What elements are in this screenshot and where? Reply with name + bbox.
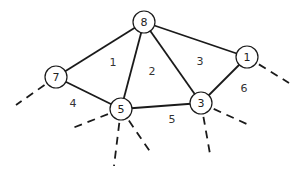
edge-8-1 <box>144 22 247 57</box>
dangling-edge-7 <box>16 85 45 105</box>
face-labels: 123456 <box>70 55 248 126</box>
node-7: 7 <box>45 66 67 88</box>
node-label: 3 <box>198 97 205 110</box>
node-1: 1 <box>236 46 258 68</box>
face-label: 2 <box>149 65 156 78</box>
node-label: 5 <box>118 103 125 116</box>
node-label: 8 <box>141 16 148 29</box>
face-label: 4 <box>70 97 77 110</box>
dangling-edge-5 <box>70 114 108 129</box>
dangling-edge-5 <box>114 123 119 166</box>
node-label: 1 <box>244 51 251 64</box>
dangling-edge-1 <box>259 64 289 83</box>
face-label: 3 <box>197 55 204 68</box>
node-5: 5 <box>110 98 132 120</box>
face-label: 6 <box>241 82 248 95</box>
face-label: 1 <box>110 56 117 69</box>
dangling-edge-3 <box>214 109 251 126</box>
dangling-edge-3 <box>203 117 210 154</box>
edge-8-3 <box>144 22 201 103</box>
node-8: 8 <box>133 11 155 33</box>
graph-diagram: 123456 87531 <box>0 0 303 172</box>
node-label: 7 <box>53 71 60 84</box>
node-3: 3 <box>190 92 212 114</box>
face-label: 5 <box>169 113 176 126</box>
edge-5-3 <box>121 103 201 109</box>
dangling-edge-5 <box>129 121 151 153</box>
